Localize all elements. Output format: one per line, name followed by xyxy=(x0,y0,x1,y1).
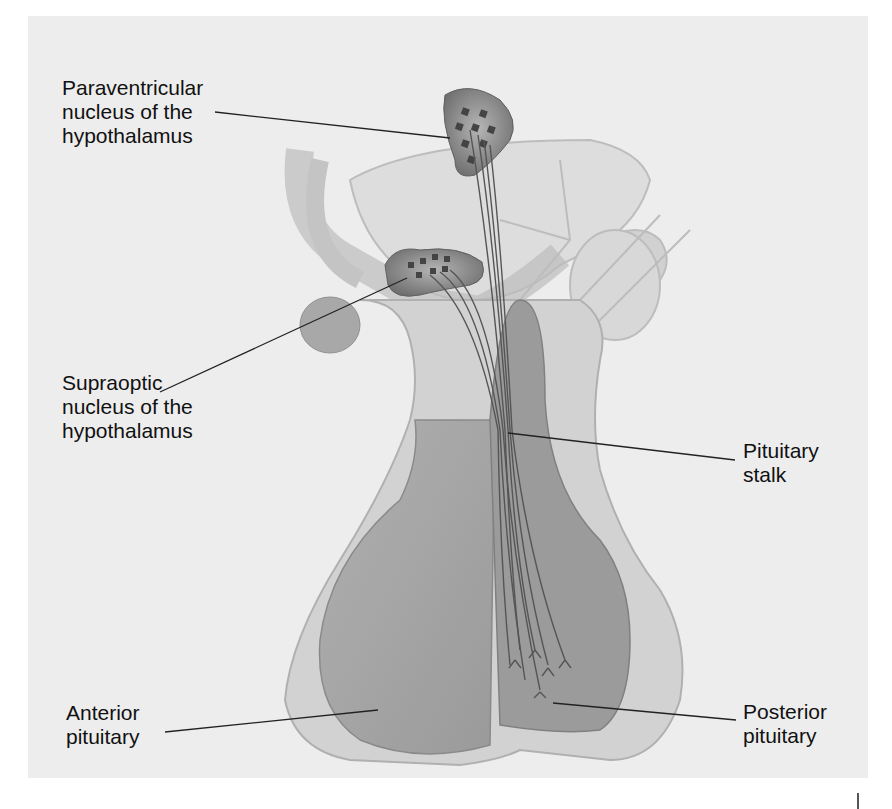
crop-mark xyxy=(857,793,859,809)
pituitary-body xyxy=(285,297,683,765)
label-supraoptic-nucleus: Supraoptic nucleus of the hypothalamus xyxy=(62,371,193,443)
label-paraventricular-nucleus: Paraventricular nucleus of the hypothala… xyxy=(62,76,203,148)
label-anterior-pituitary: Anterior pituitary xyxy=(66,701,140,749)
optic-recess xyxy=(300,297,360,353)
label-posterior-pituitary: Posterior pituitary xyxy=(743,700,827,748)
label-pituitary-stalk: Pituitary stalk xyxy=(743,439,819,487)
